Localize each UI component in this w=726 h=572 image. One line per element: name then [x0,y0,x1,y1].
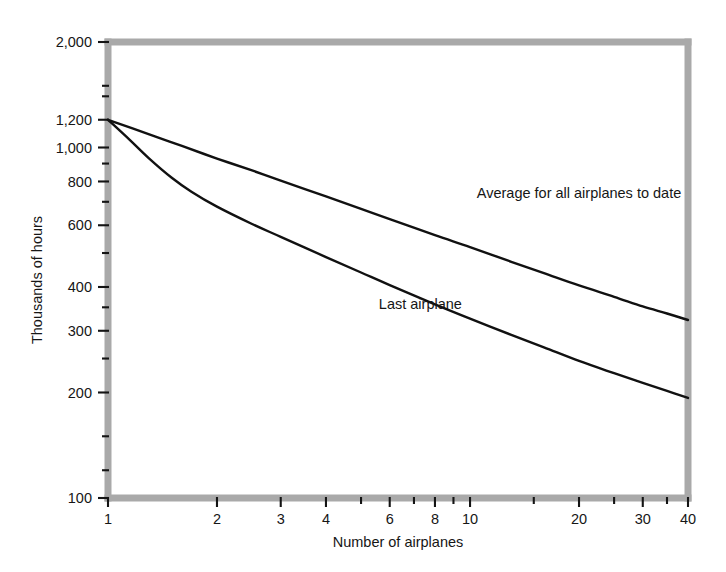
x-tick-label: 3 [277,511,285,527]
x-tick-label: 4 [322,511,330,527]
x-tick-label: 8 [431,511,439,527]
x-axis-tick-labels: 12346810203040 [104,511,696,527]
x-tick-label: 40 [680,511,696,527]
x-axis-title: Number of airplanes [333,534,464,550]
y-axis-tick-labels: 2,0001,2001,000800600400300200100 [56,34,92,506]
frame-bottom-band [105,495,692,502]
frame-left-band [105,39,112,502]
y-tick-label: 2,000 [56,34,92,50]
plot-frame [105,39,692,502]
series-curve-average-all-airplanes [108,120,688,320]
y-tick-label: 600 [68,217,92,233]
x-tick-label: 1 [104,511,112,527]
frame-right-band [685,39,692,502]
data-series-curves [108,120,688,398]
y-tick-label: 1,000 [56,140,92,156]
frame-top-band [105,39,692,46]
x-tick-label: 10 [462,511,478,527]
series-curve-last-airplane [108,120,688,398]
y-tick-label: 800 [68,174,92,190]
series-label-last-airplane: Last airplane [379,296,462,312]
y-tick-label: 1,200 [56,112,92,128]
chart-figure: 2,0001,2001,000800600400300200100 123468… [0,0,726,572]
x-tick-label: 20 [571,511,587,527]
log-log-learning-curve-chart: 2,0001,2001,000800600400300200100 123468… [0,0,726,572]
y-tick-label: 400 [68,279,92,295]
x-tick-label: 30 [635,511,651,527]
y-tick-label: 100 [68,490,92,506]
x-tick-label: 6 [386,511,394,527]
x-tick-label: 2 [213,511,221,527]
y-tick-label: 200 [68,385,92,401]
series-label-average-all-airplanes: Average for all airplanes to date [477,185,681,201]
y-axis-title: Thousands of hours [29,216,45,344]
y-tick-label: 300 [68,323,92,339]
series-annotations: Average for all airplanes to dateLast ai… [379,185,681,313]
